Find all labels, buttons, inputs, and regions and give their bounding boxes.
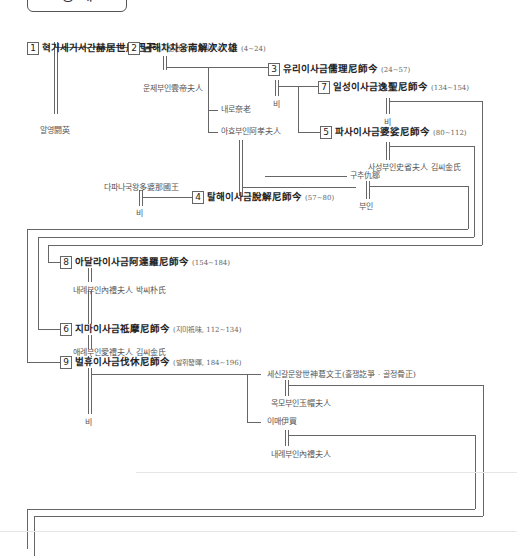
line-5-to-6 xyxy=(38,237,474,238)
line-to-imae xyxy=(247,422,261,423)
line-9-children xyxy=(91,374,261,375)
line-8-v xyxy=(48,245,49,262)
person-aryeong: 알영閼英 xyxy=(40,126,70,136)
person-unje: 운제부인雲帝夫人 xyxy=(143,84,203,94)
person-naerye: 내례부인內禮夫人 xyxy=(271,450,331,460)
king-2: 2남해차차웅南解次次雄(4~24) xyxy=(128,42,266,55)
line-7-down xyxy=(482,101,483,245)
line-6-h xyxy=(38,329,60,330)
line-9-h xyxy=(27,362,60,363)
line-sesin-left xyxy=(34,516,483,517)
line-guchu-down xyxy=(468,186,469,229)
line-ahyo-right xyxy=(242,187,356,188)
line-6-v xyxy=(38,237,39,329)
line-4-guchu xyxy=(265,176,347,177)
person-aerye: 애례부인愛禮夫人 김씨金氏 xyxy=(73,348,166,358)
king-6: 6지마이사금祗摩尼師今(지미祗味, 112~134) xyxy=(60,323,242,336)
marriage-line-guchu xyxy=(366,181,370,199)
marriage-line-5 xyxy=(386,142,390,160)
person-ahyo: 아효부인阿孝夫人 xyxy=(221,127,281,137)
line-to-ahyo xyxy=(208,132,218,133)
person-saseong: 사성부인史省夫人 김씨金氏 xyxy=(368,163,461,173)
marriage-line-6 xyxy=(88,335,92,349)
marriage-line-3 xyxy=(275,80,279,96)
line-3-children-v xyxy=(298,86,299,132)
king-5: 5파사이사금婆娑尼師今(80~112) xyxy=(320,126,467,139)
person-naero: 내로奈老 xyxy=(221,105,251,115)
person-bi-3: 비 xyxy=(273,100,280,110)
person-imae: 이매伊買 xyxy=(267,417,297,427)
king-3: 3유리이사금儒理尼師今(24~57) xyxy=(268,63,410,76)
king-8: 8아달라이사금阿達羅尼師今(154~184) xyxy=(60,256,230,269)
person-dapana: 다파나국왕多婆那國王 xyxy=(104,183,179,193)
king-4: 4탈해이사금脫解尼師今(57~80) xyxy=(192,191,334,204)
scan-artifact xyxy=(136,472,517,473)
line-7-right xyxy=(389,101,482,102)
line-sesin-down xyxy=(483,385,484,516)
line-2-children-v xyxy=(208,67,209,133)
person-buin: 부인 xyxy=(359,202,373,212)
scan-artifact xyxy=(0,531,517,532)
person-okmo: 옥모부인玉帽夫人 xyxy=(271,399,331,409)
person-naerye-park: 내례부인內禮夫人 박씨朴氏 xyxy=(73,286,166,296)
line-guchu-to-9 xyxy=(27,229,468,230)
person-guchu: 구추仇鄒 xyxy=(350,171,380,181)
line-to-naero xyxy=(208,110,218,111)
person-sesin: 세신갈문왕世神葛文王(흘쟁訖爭 · 골정骨正) xyxy=(267,370,416,380)
line-dapana-4 xyxy=(142,197,192,198)
line-7-to-8 xyxy=(48,245,482,246)
line-imae-continue xyxy=(27,509,28,549)
line-to-5 xyxy=(298,132,320,133)
marriage-line-imae xyxy=(285,430,289,446)
person-bi-7: 비 xyxy=(384,118,391,128)
line-imae-left xyxy=(27,509,475,510)
line-5-right xyxy=(389,146,474,147)
king-7: 7일성이사금逸聖尼師今(134~154) xyxy=(318,81,469,94)
person-bi-9: 비 xyxy=(85,418,92,428)
line-9-children-v xyxy=(247,374,248,422)
line-5-down xyxy=(474,146,475,237)
person-bi-dapana: 비 xyxy=(136,209,143,219)
line-8-h xyxy=(48,262,60,263)
line-9-v xyxy=(27,229,28,362)
line-2-children xyxy=(166,67,268,68)
line-imae-right xyxy=(288,435,475,436)
line-guchu-right xyxy=(369,186,468,187)
marriage-line-sesin xyxy=(285,380,289,396)
line-sesin-right xyxy=(288,385,483,386)
diagram-title: 왕 계 xyxy=(27,0,127,12)
marriage-line-8 xyxy=(88,268,92,282)
line-sesin-continue xyxy=(34,516,35,556)
